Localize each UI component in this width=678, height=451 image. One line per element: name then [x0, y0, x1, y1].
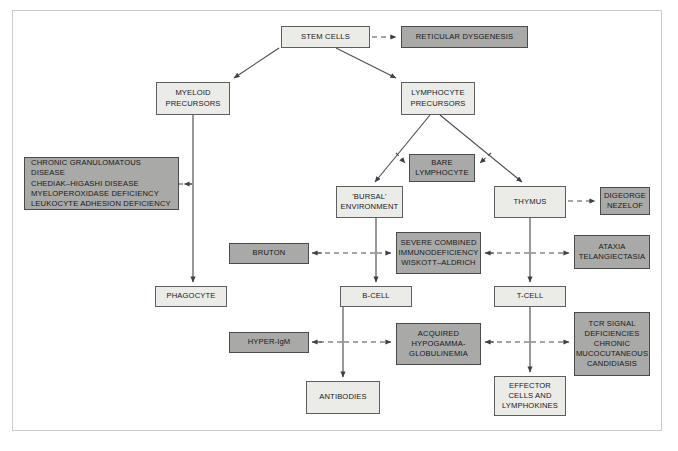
node-antibodies[interactable]: ANTIBODIES [306, 381, 380, 414]
node-phagocyte_group[interactable]: CHRONIC GRANULOMATOUS DISEASE CHEDIAK–HI… [24, 157, 179, 210]
node-bare_lymphocyte[interactable]: BARE LYMPHOCYTE [409, 154, 475, 182]
node-ataxia[interactable]: ATAXIA TELANGIECTASIA [574, 235, 650, 269]
node-t_cell[interactable]: T-CELL [494, 286, 566, 307]
node-bruton[interactable]: BRUTON [229, 243, 309, 264]
node-reticular[interactable]: RETICULAR DYSGENESIS [401, 26, 528, 48]
node-phagocyte[interactable]: PHAGOCYTE [155, 286, 227, 307]
node-hyper_igm[interactable]: HYPER-IgM [229, 332, 309, 353]
diagram-page: STEM CELLSRETICULAR DYSGENESISMYELOID PR… [0, 0, 678, 451]
node-digeorge[interactable]: DIGEORGE NEZELOF [600, 187, 650, 215]
diagram-frame [12, 10, 662, 431]
node-hypogamma[interactable]: ACQUIRED HYPOGAMMA- GLOBULINEMIA [396, 323, 481, 365]
node-myeloid[interactable]: MYELOID PRECURSORS [156, 82, 230, 115]
node-effector[interactable]: EFFECTOR CELLS AND LYMPHOKINES [494, 376, 566, 416]
node-stem_cells[interactable]: STEM CELLS [281, 26, 370, 48]
node-lymphocyte[interactable]: LYMPHOCYTE PRECURSORS [401, 82, 475, 115]
node-thymus[interactable]: THYMUS [494, 186, 566, 218]
node-tcr_signal[interactable]: TCR SIGNAL DEFICIENCIES CHRONIC MUCOCUTA… [574, 312, 650, 376]
node-b_cell[interactable]: B-CELL [340, 286, 412, 307]
node-scid[interactable]: SEVERE COMBINED IMMUNODEFICIENCY WISKOTT… [396, 232, 481, 274]
node-bursal[interactable]: 'BURSAL' ENVIRONMENT [336, 186, 403, 218]
